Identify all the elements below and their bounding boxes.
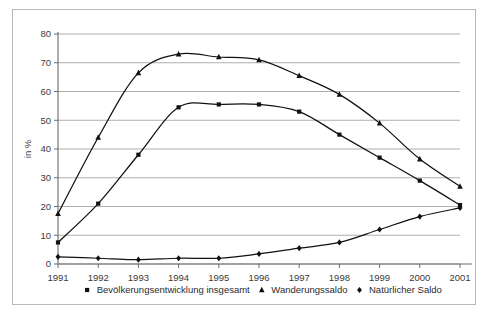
y-tick-label: 70 (40, 57, 51, 68)
y-tick-label: 60 (40, 86, 51, 97)
gridlines: 01020304050607080 (40, 28, 460, 269)
y-tick-label: 0 (46, 258, 51, 269)
chart-frame: 01020304050607080in %1991199219931994199… (12, 9, 476, 305)
y-tick-label: 10 (40, 230, 51, 241)
data-point-square (56, 240, 60, 244)
x-tick-label: 1994 (168, 272, 189, 283)
data-point-diamond (136, 257, 141, 263)
data-point-square (257, 102, 261, 106)
x-tick-label: 1996 (248, 272, 269, 283)
trend-line (58, 53, 460, 213)
legend-label: Bevölkerungsentwicklung insgesamt (97, 284, 250, 295)
y-tick-label: 40 (40, 143, 51, 154)
data-point-triangle (55, 210, 61, 216)
data-point-square (96, 202, 100, 206)
data-point-diamond (257, 251, 262, 257)
data-point-square (177, 105, 181, 109)
data-point-diamond (56, 254, 61, 260)
series-3 (56, 205, 463, 263)
y-axis-title: in % (22, 139, 33, 158)
legend-item[interactable]: Wanderungssaldo (259, 284, 348, 295)
data-point-triangle (259, 287, 265, 293)
y-tick-label: 30 (40, 172, 51, 183)
data-point-square (297, 110, 301, 114)
data-point-square (378, 156, 382, 160)
legend-label: Wanderungssaldo (271, 284, 347, 295)
legend-item[interactable]: Bevölkerungsentwicklung insgesamt (85, 284, 250, 295)
x-tick-label: 2000 (409, 272, 430, 283)
y-tick-label: 50 (40, 115, 51, 126)
x-tick-label: 1991 (47, 272, 68, 283)
series-2 (55, 51, 463, 216)
y-tick-label: 20 (40, 201, 51, 212)
data-point-square (418, 179, 422, 183)
legend-label: Natürlicher Saldo (369, 284, 442, 295)
data-point-diamond (377, 226, 382, 232)
data-point-square (136, 153, 140, 157)
data-point-diamond (176, 255, 181, 261)
x-tick-label: 1997 (289, 272, 310, 283)
data-point-diamond (297, 245, 302, 251)
data-point-diamond (337, 239, 342, 245)
data-point-triangle (377, 120, 383, 126)
chart-page: 01020304050607080in %1991199219931994199… (0, 0, 492, 321)
x-axis-ticks: 1991199219931994199519961997199819992000… (47, 264, 470, 283)
chart-legend: Bevölkerungsentwicklung insgesamtWanderu… (85, 284, 442, 295)
data-point-square (85, 288, 89, 292)
data-point-diamond (96, 255, 101, 261)
trend-line (58, 103, 460, 243)
x-tick-label: 1993 (128, 272, 149, 283)
data-point-triangle (457, 183, 463, 189)
x-tick-label: 1995 (208, 272, 229, 283)
data-point-diamond (216, 255, 221, 261)
data-point-square (337, 133, 341, 137)
series-1 (56, 102, 462, 244)
x-tick-label: 1992 (88, 272, 109, 283)
y-tick-label: 80 (40, 28, 51, 39)
data-point-diamond (417, 213, 422, 219)
data-point-square (217, 102, 221, 106)
data-point-diamond (357, 287, 362, 293)
x-tick-label: 1999 (369, 272, 390, 283)
x-tick-label: 1998 (329, 272, 350, 283)
chart-canvas: 01020304050607080in %1991199219931994199… (13, 10, 475, 304)
x-tick-label: 2001 (449, 272, 470, 283)
legend-item[interactable]: Natürlicher Saldo (357, 284, 442, 295)
